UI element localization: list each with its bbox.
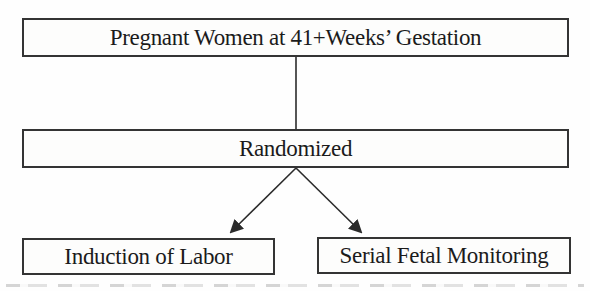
node-induction-of-labor-box: Induction of Labor (22, 238, 275, 275)
node-induction-of-labor-label: Induction of Labor (64, 245, 232, 268)
randomized-to-monitoring-arrow (296, 168, 360, 231)
node-serial-fetal-monitoring-box: Serial Fetal Monitoring (317, 237, 571, 274)
node-population-box: Pregnant Women at 41+Weeks’ Gestation (22, 18, 569, 57)
node-population-label: Pregnant Women at 41+Weeks’ Gestation (110, 26, 482, 49)
randomized-to-induction-arrow (232, 168, 296, 231)
flowchart-canvas: Pregnant Women at 41+Weeks’ Gestation Ra… (0, 0, 590, 291)
node-randomized-label: Randomized (239, 137, 352, 160)
node-serial-fetal-monitoring-label: Serial Fetal Monitoring (339, 244, 548, 267)
scan-artifact-streak (6, 284, 584, 287)
node-randomized-box: Randomized (22, 129, 569, 168)
